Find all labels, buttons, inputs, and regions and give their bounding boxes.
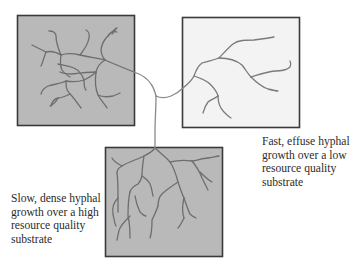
caption-right-line-2: growth over a low: [262, 149, 350, 163]
substrate-box-top-right: [183, 18, 300, 128]
substrate-box-bottom: [106, 148, 223, 257]
caption-right-line-3: resource quality: [262, 162, 350, 176]
caption-left-line-2: growth over a high: [11, 206, 101, 220]
caption-high-quality-substrate: Slow, dense hyphal growth over a high re…: [11, 192, 101, 246]
caption-low-quality-substrate: Fast, effuse hyphal growth over a low re…: [262, 135, 350, 189]
substrate-box-top-left: [18, 16, 135, 126]
caption-left-line-4: substrate: [11, 233, 101, 247]
connecting-hypha: [134, 72, 183, 148]
caption-right-line-4: substrate: [262, 176, 350, 190]
hyphal-growth-diagram: Fast, effuse hyphal growth over a low re…: [0, 0, 358, 270]
caption-right-line-1: Fast, effuse hyphal: [262, 135, 350, 149]
caption-left-line-3: resource quality: [11, 219, 101, 233]
caption-left-line-1: Slow, dense hyphal: [11, 192, 101, 206]
